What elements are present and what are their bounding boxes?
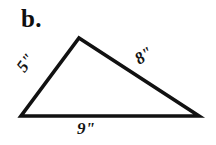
- side-label-base: 9": [77, 120, 95, 138]
- geometry-figure: b. 5" 8" 9": [0, 0, 216, 145]
- triangle-outline: [21, 38, 199, 116]
- triangle-shape: [0, 0, 216, 145]
